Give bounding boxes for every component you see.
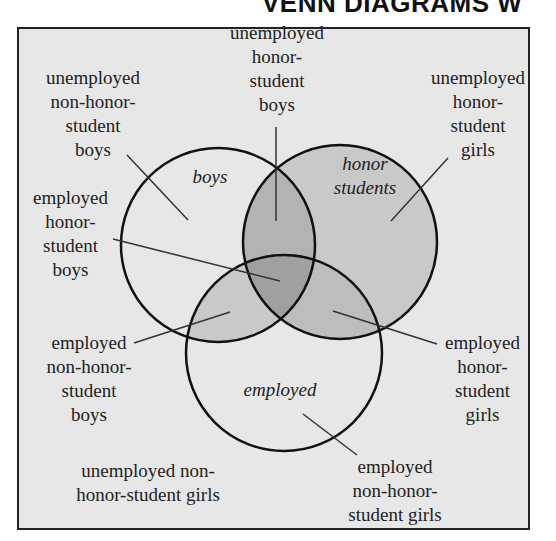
- label-unemployed-non-honor-student-girls: unemployed non- honor-student girls: [48, 459, 248, 507]
- label-employed-non-honor-student-boys: employed non-honor- student boys: [24, 331, 154, 427]
- leader-employed-non-honor-girls: [303, 414, 357, 455]
- label-unemployed-non-honor-student-boys: unemployed non-honor- student boys: [28, 66, 158, 162]
- label-employed-honor-student-girls: employed honor- student girls: [430, 331, 535, 427]
- set-label-boys: boys: [180, 165, 240, 189]
- leader-unemployed-non-honor-boys: [127, 155, 188, 220]
- label-employed-honor-student-boys: employed honor- student boys: [18, 186, 123, 282]
- set-label-honor-students: honor students: [320, 152, 410, 200]
- label-unemployed-honor-student-boys: unemployed honor- student boys: [212, 21, 342, 117]
- label-employed-non-honor-student-girls: employed non-honor- student girls: [320, 455, 470, 527]
- label-unemployed-honor-student-girls: unemployed honor- student girls: [418, 66, 538, 162]
- set-label-employed: employed: [225, 378, 335, 402]
